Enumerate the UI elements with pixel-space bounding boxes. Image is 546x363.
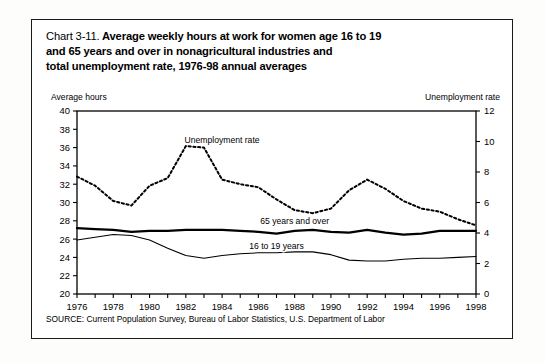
x-axis-tick-label: 1976 <box>67 301 88 312</box>
chart-svg: 2022242628303234363840024681012197619781… <box>32 20 514 340</box>
plot-border <box>77 111 476 294</box>
x-axis-tick-label: 1988 <box>284 301 305 312</box>
y-axis-tick-label: 32 <box>60 179 70 190</box>
x-axis-tick-label: 1986 <box>248 301 269 312</box>
y2-axis-tick-label: 8 <box>484 166 489 177</box>
x-axis-tick-label: 1996 <box>429 301 450 312</box>
y-axis-tick-label: 20 <box>60 288 70 299</box>
x-axis-tick-label: 1990 <box>320 301 341 312</box>
y-axis-tick-label: 38 <box>60 124 70 135</box>
y2-axis-tick-label: 10 <box>484 136 494 147</box>
source-note: SOURCE: Current Population Survey, Burea… <box>46 314 385 324</box>
y-axis-tick-label: 30 <box>60 197 70 208</box>
x-axis-tick-label: 1994 <box>393 301 414 312</box>
x-axis-tick-label: 1978 <box>103 301 124 312</box>
series-line-unemployment-rate <box>77 146 476 225</box>
series-line-65-years-and-over <box>77 228 476 234</box>
y2-axis-tick-label: 6 <box>484 197 489 208</box>
series-label-unemployment-rate: Unemployment rate <box>185 135 260 145</box>
series-label-65-years-and-over: 65 years and over <box>260 216 329 226</box>
x-axis-tick-label: 1982 <box>175 301 196 312</box>
y-axis-tick-label: 26 <box>60 234 70 245</box>
y-axis-tick-label: 34 <box>60 160 70 171</box>
y-axis-tick-label: 22 <box>60 270 70 281</box>
y-axis-tick-label: 24 <box>60 252 70 263</box>
x-axis-tick-label: 1992 <box>357 301 378 312</box>
x-axis-tick-label: 1984 <box>212 301 233 312</box>
y2-axis-tick-label: 4 <box>484 227 489 238</box>
y2-axis-tick-label: 12 <box>484 105 494 116</box>
screenshot-page: Chart 3-11. Average weekly hours at work… <box>0 0 546 363</box>
x-axis-tick-label: 1980 <box>139 301 160 312</box>
chart-frame: Chart 3-11. Average weekly hours at work… <box>31 19 513 339</box>
x-axis-tick-label: 1998 <box>466 301 487 312</box>
y2-axis-tick-label: 0 <box>484 288 489 299</box>
series-label-16-to-19-years: 16 to 19 years <box>249 241 303 251</box>
axes-group: 2022242628303234363840024681012197619781… <box>60 105 495 312</box>
y2-axis-tick-label: 2 <box>484 258 489 269</box>
y-axis-tick-label: 40 <box>60 105 70 116</box>
plot-area: 2022242628303234363840024681012197619781… <box>32 20 514 340</box>
y-axis-tick-label: 28 <box>60 215 70 226</box>
y-axis-tick-label: 36 <box>60 142 70 153</box>
